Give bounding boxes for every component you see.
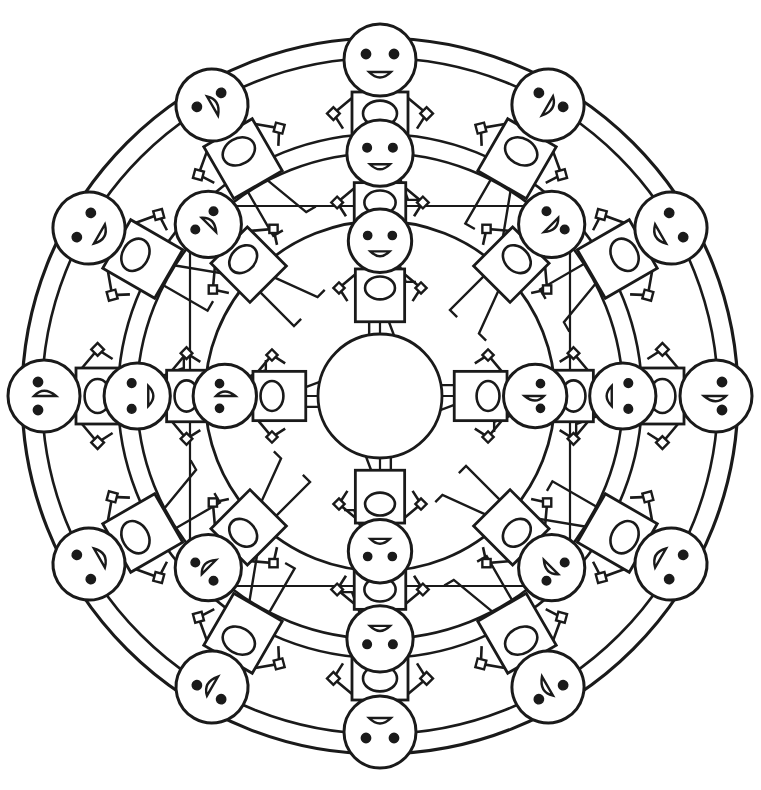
- hand-left: [153, 572, 164, 583]
- eye-right: [361, 733, 370, 742]
- eye-right: [717, 405, 726, 414]
- eye-right: [389, 49, 398, 58]
- hand-right: [543, 285, 551, 293]
- eye-left: [389, 733, 398, 742]
- eye-left: [363, 143, 371, 151]
- figure-head: [590, 363, 656, 429]
- eye-right: [363, 640, 371, 648]
- body-oval: [365, 277, 395, 300]
- figure-head: [344, 696, 416, 768]
- eye-right: [33, 377, 42, 386]
- eye-left: [33, 405, 42, 414]
- figure-head: [347, 606, 413, 672]
- body-oval: [261, 381, 284, 411]
- hand-right: [274, 123, 285, 134]
- figure-head: [104, 363, 170, 429]
- hand-left: [107, 290, 118, 301]
- hand-right: [269, 225, 277, 233]
- eye-left: [215, 404, 223, 412]
- hand-left: [209, 285, 217, 293]
- hand-left: [596, 209, 607, 220]
- hand-right: [209, 498, 217, 506]
- eye-right: [389, 143, 397, 151]
- body-oval: [365, 493, 395, 516]
- eye-left: [388, 552, 396, 560]
- eye-right: [127, 379, 135, 387]
- eye-left: [389, 640, 397, 648]
- hand-right: [482, 559, 490, 567]
- eye-left: [717, 377, 726, 386]
- hand-left: [642, 491, 653, 502]
- body-oval: [477, 381, 500, 411]
- center-circle: [318, 334, 442, 458]
- coloring-page-canvas: People Mandala Coloring Page Outer ring …: [0, 0, 761, 790]
- hand-right: [642, 290, 653, 301]
- eye-left: [536, 380, 544, 388]
- eye-right: [364, 552, 372, 560]
- hand-right: [153, 209, 164, 220]
- hand-right: [193, 612, 204, 623]
- hand-right: [556, 169, 567, 180]
- hand-left: [482, 225, 490, 233]
- hand-left: [475, 123, 486, 134]
- hand-right: [475, 658, 486, 669]
- hand-left: [193, 169, 204, 180]
- eye-right: [624, 405, 632, 413]
- mandala-artwork: [0, 0, 761, 790]
- eye-left: [127, 405, 135, 413]
- figure-head: [344, 24, 416, 96]
- figure-head: [348, 520, 411, 583]
- hand-left: [556, 612, 567, 623]
- hand-left: [269, 559, 277, 567]
- hand-left: [543, 498, 551, 506]
- eye-right: [215, 380, 223, 388]
- hand-right: [596, 572, 607, 583]
- eye-left: [364, 231, 372, 239]
- figure-head: [347, 120, 413, 186]
- eye-left: [624, 379, 632, 387]
- hand-right: [107, 491, 118, 502]
- eye-left: [361, 49, 370, 58]
- hand-left: [274, 658, 285, 669]
- eye-right: [388, 231, 396, 239]
- eye-right: [536, 404, 544, 412]
- figure-head: [348, 209, 411, 272]
